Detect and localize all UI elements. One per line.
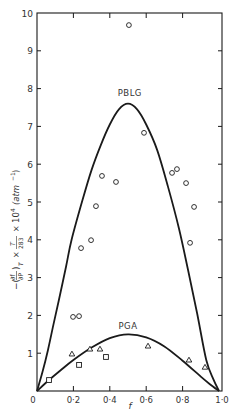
y-tick-label: 10: [22, 9, 34, 19]
curves: [37, 104, 219, 391]
y-tick-label: 6: [27, 160, 33, 170]
ylabel-unit-close: ): [11, 170, 21, 173]
y-tick-label: 2: [27, 311, 33, 321]
pga-label: PGA: [118, 321, 137, 331]
y-axis-label: −(∂f∂P)T×T283×104(atm−1): [9, 170, 25, 290]
triangle-marker: [69, 351, 75, 356]
x-tick-label: 0·8: [176, 395, 190, 405]
circle-marker: [100, 174, 105, 179]
ylabel-den: ∂P: [17, 273, 25, 280]
circle-marker: [114, 180, 119, 185]
pga-curve: [37, 334, 219, 391]
square-marker: [47, 378, 52, 383]
ylabel-unit: (atm: [11, 185, 21, 205]
pblg-curve: [37, 104, 219, 391]
y-tick-label: 8: [27, 84, 33, 94]
x-axis-ticks: 00·20·40·60·81·0: [30, 13, 228, 405]
ylabel-num: ∂f: [9, 274, 17, 280]
y-tick-label: 9: [27, 46, 33, 56]
circle-marker: [77, 314, 82, 319]
y-tick-label: 5: [27, 198, 33, 208]
x-tick-label: 0·6: [139, 395, 153, 405]
triangle-marker: [186, 357, 192, 362]
triangle-marker: [97, 346, 103, 351]
annotations: PBLGPGA: [118, 88, 142, 330]
x-axis-label: f: [128, 401, 133, 411]
y-tick-label: 1: [27, 349, 33, 359]
ylabel-frac-den: 283: [17, 237, 24, 249]
circle-marker: [94, 204, 99, 209]
x-tick-label: 1·0: [215, 395, 229, 405]
circle-marker: [89, 238, 94, 243]
circle-marker: [170, 170, 175, 175]
circle-marker: [71, 315, 76, 320]
ylabel-times: ×: [12, 251, 21, 258]
circle-marker: [142, 130, 147, 135]
x-tick-label: 0: [30, 395, 35, 405]
x-tick-label: 0·4: [103, 395, 117, 405]
chart-svg: 12345678910 00·20·40·60·81·0 PBLGPGA f −…: [0, 0, 232, 418]
ylabel-sub: T: [17, 261, 24, 266]
ylabel-frac-num: T: [9, 241, 17, 246]
square-marker: [77, 363, 82, 368]
circle-marker: [175, 167, 180, 172]
ylabel-times2: ×: [12, 225, 21, 232]
circle-marker: [192, 205, 197, 210]
y-tick-label: 7: [27, 122, 33, 132]
chart: 12345678910 00·20·40·60·81·0 PBLGPGA f −…: [0, 0, 232, 418]
circle-marker: [188, 240, 193, 245]
circle-marker: [79, 246, 84, 251]
ylabel-close: ): [11, 266, 21, 270]
y-axis-ticks: 12345678910: [22, 9, 222, 359]
triangle-marker: [145, 343, 151, 348]
ylabel-power: 10: [11, 212, 21, 223]
circle-marker: [127, 23, 132, 28]
y-tick-label: 3: [27, 273, 33, 283]
square-marker: [104, 355, 109, 360]
ylabel-exp: 4: [9, 208, 16, 212]
x-tick-label: 0·2: [67, 395, 81, 405]
circle-marker: [184, 181, 189, 186]
y-tick-label: 4: [27, 235, 33, 245]
pblg-label: PBLG: [118, 88, 142, 98]
